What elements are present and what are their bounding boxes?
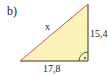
hypotenuse-label: x (45, 22, 50, 32)
right-angle-dot-icon (84, 57, 86, 59)
part-label: b) (7, 5, 17, 17)
vertical-leg-label: 15,4 (90, 29, 108, 39)
horizontal-leg-label: 17,8 (43, 64, 61, 74)
